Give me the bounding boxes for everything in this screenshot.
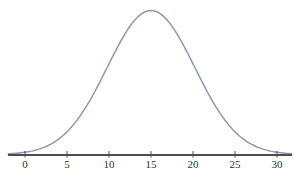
x-tick-label-20: 20 — [188, 158, 199, 171]
x-tick-label-5: 5 — [64, 158, 70, 171]
x-tick-label-15: 15 — [146, 158, 157, 171]
distribution-curve — [8, 11, 292, 154]
x-tick-label-0: 0 — [22, 158, 28, 171]
x-tick-label-10: 10 — [104, 158, 115, 171]
x-tick-label-30: 30 — [272, 158, 283, 171]
bell-curve-figure: 0 5 10 15 20 25 30 — [0, 0, 297, 181]
x-tick-label-25: 25 — [230, 158, 241, 171]
chart-svg — [0, 0, 297, 181]
